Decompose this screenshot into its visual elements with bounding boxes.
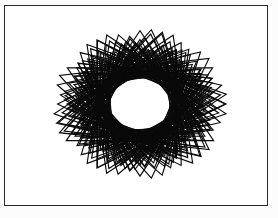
figure-page bbox=[0, 0, 278, 218]
spirograph-canvas bbox=[5, 6, 267, 205]
figure-frame bbox=[4, 5, 268, 206]
spirograph-center-hole bbox=[117, 87, 163, 123]
